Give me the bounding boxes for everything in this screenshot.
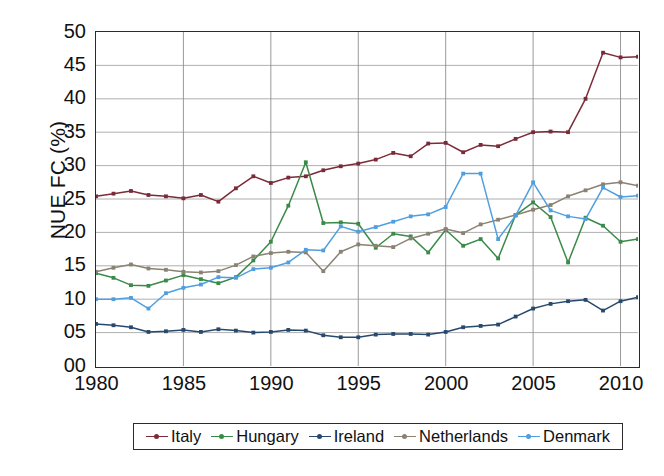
data-point-marker [496,323,500,327]
data-point-marker [199,283,203,287]
data-point-marker [619,180,623,184]
data-point-marker [619,195,623,199]
data-point-marker [182,270,186,274]
series-line [96,162,638,286]
series-line [96,182,638,272]
data-point-marker [496,257,500,261]
legend-item-netherlands[interactable]: Netherlands [394,427,508,446]
data-point-marker [636,194,638,198]
data-point-marker [96,297,98,301]
data-point-marker [129,263,133,267]
y-axis-title: NUE FC (%) [46,30,70,330]
data-point-marker [147,193,151,197]
x-tick-label: 1980 [57,372,137,395]
data-point-marker [216,269,220,273]
data-point-marker [251,259,255,263]
data-point-marker [251,267,255,271]
legend-marker-icon [518,431,540,443]
data-point-marker [147,307,151,311]
x-tick-label: 1985 [144,372,224,395]
data-point-marker [269,240,273,244]
data-point-marker [409,237,413,241]
data-point-marker [147,330,151,334]
data-point-marker [496,237,500,241]
data-point-marker [601,186,605,190]
data-point-marker [356,162,360,166]
data-point-marker [112,266,116,270]
nue-fc-line-chart: NUE FC (%) 5045403530252015100500 198019… [0,0,664,476]
data-point-marker [391,332,395,336]
data-point-marker [356,230,360,234]
data-point-marker [234,186,238,190]
series-netherlands [96,180,638,274]
data-point-marker [96,322,98,326]
data-point-marker [461,150,465,154]
data-point-marker [601,309,605,313]
data-point-marker [619,55,623,59]
data-point-marker [409,154,413,158]
data-point-marker [182,328,186,332]
data-point-marker [636,295,638,299]
data-point-marker [566,194,570,198]
legend-item-italy[interactable]: Italy [146,427,201,446]
legend-item-hungary[interactable]: Hungary [211,427,298,446]
data-point-marker [129,296,133,300]
data-point-marker [391,245,395,249]
data-point-marker [584,217,588,221]
data-point-marker [549,215,553,219]
series-line [96,297,638,337]
data-point-marker [251,174,255,178]
data-point-marker [479,222,483,226]
data-point-marker [182,196,186,200]
data-point-marker [461,244,465,248]
data-point-marker [251,255,255,259]
data-point-marker [566,130,570,134]
legend-item-ireland[interactable]: Ireland [309,427,384,446]
data-point-marker [566,299,570,303]
data-point-marker [199,193,203,197]
legend-label: Italy [171,427,201,446]
data-point-marker [496,218,500,222]
data-point-marker [216,200,220,204]
data-point-marker [304,248,308,252]
data-point-marker [321,221,325,225]
data-point-marker [199,271,203,275]
data-point-marker [549,208,553,212]
data-point-marker [426,232,430,236]
legend-marker-icon [146,431,168,443]
data-point-marker [391,151,395,155]
data-point-marker [531,130,535,134]
data-point-marker [96,270,98,274]
data-point-marker [601,51,605,55]
data-point-marker [164,279,168,283]
data-point-marker [461,325,465,329]
chart-legend: ItalyHungaryIrelandNetherlandsDenmark [133,423,623,450]
legend-marker-icon [394,431,416,443]
data-point-marker [426,142,430,146]
data-point-marker [129,325,133,329]
data-point-marker [566,261,570,265]
data-point-marker [479,172,483,176]
data-point-marker [531,208,535,212]
data-point-marker [269,330,273,334]
data-point-marker [269,181,273,185]
data-point-marker [129,283,133,287]
data-point-marker [304,329,308,333]
legend-item-denmark[interactable]: Denmark [518,427,610,446]
data-point-marker [479,324,483,328]
data-point-marker [269,251,273,255]
data-point-marker [286,328,290,332]
data-point-marker [374,333,378,337]
data-point-marker [321,168,325,172]
data-point-marker [216,275,220,279]
data-point-marker [426,333,430,337]
data-point-marker [321,269,325,273]
data-point-marker [636,184,638,188]
series-canvas [96,32,638,366]
data-point-marker [531,180,535,184]
data-point-marker [374,244,378,248]
data-point-marker [339,164,343,168]
data-point-marker [182,286,186,290]
data-point-marker [356,222,360,226]
data-point-marker [409,332,413,336]
